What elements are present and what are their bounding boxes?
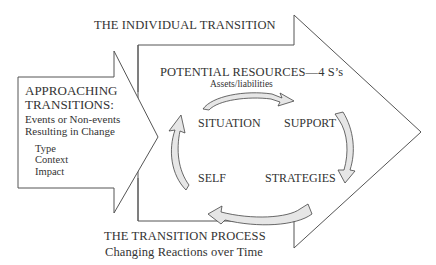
factor-context: Context [35,154,68,166]
process-subtitle: Changing Reactions over Time [105,246,263,259]
resources-subtitle: Assets/liabilities [210,80,273,90]
resources-title: POTENTIAL RESOURCES—4 S’s [160,66,343,79]
self-label: SELF [198,172,226,184]
individual-transition-label: THE INDIVIDUAL TRANSITION [94,19,276,32]
approaching-title-line2: TRANSITIONS: [25,98,114,111]
strategies-label: STRATEGIES [265,172,336,184]
process-title: THE TRANSITION PROCESS [104,230,266,243]
approaching-sub-line1: Events or Non-events [25,113,120,125]
support-label: SUPPORT [284,117,336,129]
factor-type: Type [35,143,56,155]
factor-impact: Impact [35,166,64,178]
transition-model-diagram: THE INDIVIDUAL TRANSITION APPROACHING TR… [0,0,436,265]
approaching-sub-line2: Resulting in Change [25,125,115,137]
approaching-title-line1: APPROACHING [25,84,117,97]
situation-label: SITUATION [198,117,261,129]
